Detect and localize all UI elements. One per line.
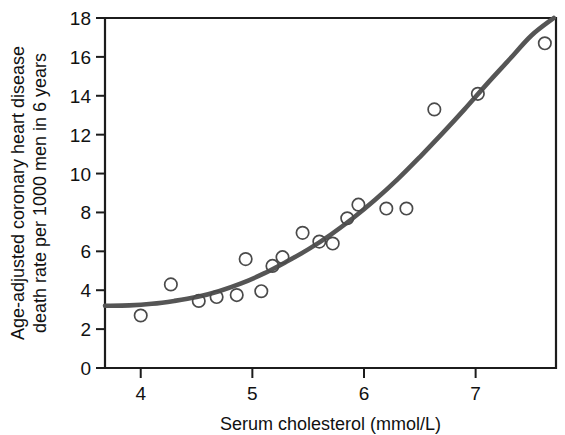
- data-point-marker: [239, 253, 251, 265]
- plot-frame: [105, 18, 556, 368]
- data-point-marker: [428, 103, 440, 115]
- y-axis-tick-label: 8: [80, 202, 91, 223]
- y-axis-tick-label: 6: [80, 241, 91, 262]
- data-point-marker: [296, 227, 308, 239]
- x-axis-title: Serum cholesterol (mmol/L): [220, 414, 441, 434]
- y-axis-tick-label: 10: [70, 164, 91, 185]
- data-point-marker: [539, 37, 551, 49]
- chart-figure: 0246810121416184567Serum cholesterol (mm…: [0, 0, 565, 435]
- x-axis-tick-label: 6: [359, 383, 370, 404]
- data-point-marker: [231, 289, 243, 301]
- y-axis-title-line1: Age-adjusted coronary heart disease: [8, 46, 28, 340]
- regression-curve: [105, 18, 554, 306]
- data-point-marker: [255, 285, 267, 297]
- data-point-marker: [135, 309, 147, 321]
- scatter-plot: 0246810121416184567Serum cholesterol (mm…: [0, 0, 565, 435]
- x-axis-tick-label: 5: [247, 383, 258, 404]
- y-axis-tick-label: 14: [70, 86, 92, 107]
- data-point-marker: [165, 278, 177, 290]
- x-axis-tick-label: 4: [135, 383, 146, 404]
- data-point-marker: [380, 202, 392, 214]
- data-point-marker: [352, 198, 364, 210]
- x-axis-tick-label: 7: [470, 383, 481, 404]
- y-axis-tick-label: 4: [80, 280, 91, 301]
- y-axis-tick-label: 18: [70, 8, 91, 29]
- y-axis-title-line2: death rate per 1000 men in 6 years: [30, 53, 50, 333]
- data-point-marker: [327, 237, 339, 249]
- y-axis-tick-label: 16: [70, 47, 91, 68]
- y-axis-tick-label: 12: [70, 125, 91, 146]
- data-point-marker: [400, 202, 412, 214]
- y-axis-tick-label: 2: [80, 319, 91, 340]
- y-axis-tick-label: 0: [80, 358, 91, 379]
